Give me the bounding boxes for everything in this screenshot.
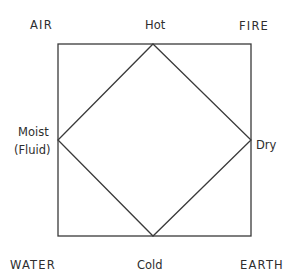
quality-label-hot: Hot bbox=[145, 18, 165, 32]
quality-label-cold: Cold bbox=[137, 258, 163, 272]
quality-label-fluid: (Fluid) bbox=[14, 143, 51, 157]
outer-square bbox=[58, 44, 251, 236]
element-label-fire: FIRE bbox=[239, 19, 269, 33]
element-label-water: WATER bbox=[10, 258, 56, 272]
quality-label-moist: Moist bbox=[18, 125, 49, 139]
element-label-air: AIR bbox=[30, 18, 53, 32]
element-label-earth: EARTH bbox=[240, 258, 284, 272]
quality-label-dry: Dry bbox=[256, 138, 276, 152]
inner-diamond bbox=[58, 44, 251, 236]
